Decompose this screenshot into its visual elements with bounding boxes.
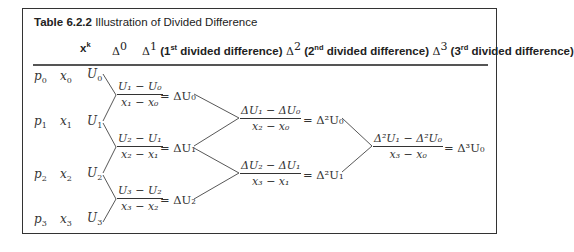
first-diff-1-result: = ΔU₁ [160,141,196,155]
third-diff-0-fraction: Δ²U₁ − Δ²U₀ x₃ − x₀ [373,132,443,161]
first-diff-2-fraction: U₃ − U₂ x₃ − x₂ [117,184,163,213]
second-diff-0-result: = Δ²U₀ [303,113,344,127]
first-diff-2-result: = ΔU₂ [160,193,196,207]
third-diff-0-result: = Δ³U₀ [444,141,485,155]
first-diff-0-result: = ΔU₀ [160,89,196,103]
second-diff-1-fraction: ΔU₂ − ΔU₁ x₃ − x₁ [240,159,301,188]
first-diff-1-fraction: U₂ − U₁ x₂ − x₁ [117,132,163,161]
first-diff-0-fraction: U₁ − U₀ x₁ − x₀ [117,80,163,109]
second-diff-1-result: = Δ²U₁ [303,168,344,182]
second-diff-0-fraction: ΔU₁ − ΔU₀ x₂ − x₀ [240,104,301,133]
